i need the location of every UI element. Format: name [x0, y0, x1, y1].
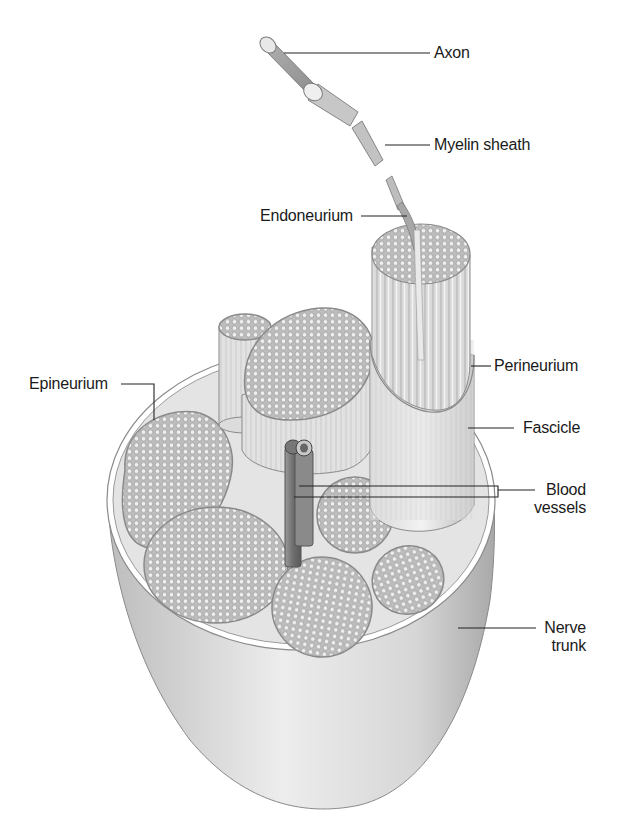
label-blood-vessels-line1: Blood	[536, 481, 586, 499]
label-axon: Axon	[434, 44, 470, 62]
label-blood-vessels: Blood vessels	[536, 481, 586, 517]
label-nerve-trunk-line1: Nerve	[540, 619, 586, 637]
label-perineurium: Perineurium	[494, 357, 578, 375]
label-nerve-trunk-line2: trunk	[540, 637, 586, 655]
label-nerve-trunk: Nerve trunk	[540, 619, 586, 655]
nerve-diagram	[0, 0, 624, 828]
label-fascicle: Fascicle	[523, 419, 580, 437]
label-blood-vessels-line2: vessels	[524, 499, 586, 517]
label-epineurium: Epineurium	[29, 375, 108, 393]
label-endoneurium: Endoneurium	[260, 207, 353, 225]
label-myelin-sheath: Myelin sheath	[434, 136, 530, 154]
